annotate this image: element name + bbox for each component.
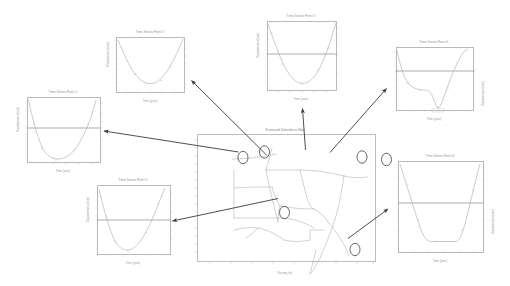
map-site-markers <box>238 146 392 256</box>
subplot-tick-marks <box>397 168 486 252</box>
subplot-graphics <box>18 88 108 176</box>
subplot-data-points <box>408 83 449 108</box>
subplot-top-left[interactable]: Time Series Point 2 Time (year) Displace… <box>108 28 192 106</box>
subplot-tick-marks <box>95 192 172 257</box>
subplot-graphics <box>386 38 482 124</box>
central-map-plot[interactable]: Estimated Subsidence Map Easting (m) <box>192 126 378 276</box>
map-marker-site-5 <box>280 206 290 218</box>
map-y-ticks <box>195 140 197 252</box>
subplot-data-points <box>106 204 159 252</box>
subplot-tick-marks <box>265 26 339 93</box>
subplot-data-points <box>408 184 474 243</box>
subplot-curve <box>268 23 336 83</box>
subplot-bottom-left[interactable]: Time Series Point 5 Time (year) Displace… <box>88 176 178 268</box>
subplot-curve <box>29 100 97 159</box>
subplot-data-points <box>272 33 329 85</box>
subplot-right-top[interactable]: Time Series Point 4 Time (year) Displace… <box>386 38 482 124</box>
subplot-curve <box>397 49 468 108</box>
map-graphics <box>192 126 378 276</box>
subplot-curve <box>99 188 165 250</box>
map-boundary-lines <box>232 148 368 274</box>
subplot-right-bottom[interactable]: Time Series Point 6 Time (year) Displace… <box>388 152 492 266</box>
subplot-tick-marks <box>115 40 188 95</box>
map-x-ticks <box>210 262 373 264</box>
map-marker-site-3 <box>357 151 367 163</box>
map-marker-site-1 <box>238 151 248 163</box>
figure-canvas: Estimated Subsidence Map Easting (m) <box>0 0 510 286</box>
subplot-top-center[interactable]: Time Series Point 3 Time (year) Displace… <box>258 12 344 104</box>
subplot-graphics <box>88 176 178 268</box>
subplot-data-points <box>135 66 171 85</box>
subplot-graphics <box>108 28 192 106</box>
map-marker-site-6 <box>350 243 360 255</box>
subplot-tick-marks <box>394 52 476 113</box>
subplot-curve <box>118 39 183 84</box>
subplot-left-middle[interactable]: Time Series Point 1 Time (year) Displace… <box>18 88 108 176</box>
subplot-graphics <box>388 152 492 266</box>
subplot-graphics <box>258 12 344 104</box>
